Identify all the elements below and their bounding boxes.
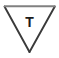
diagram-canvas: T	[0, 0, 59, 58]
triangle-letter-label: T	[0, 15, 59, 29]
